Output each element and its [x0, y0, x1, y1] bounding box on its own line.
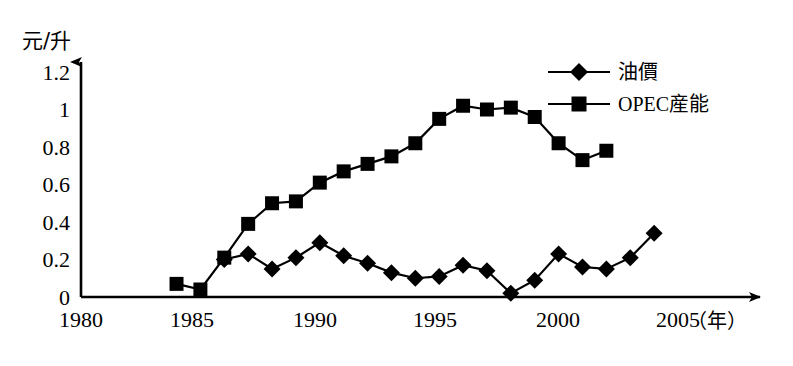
data-point-1993[interactable]: OPEC産能 1993: 0.75	[384, 149, 398, 163]
data-point-1986[interactable]: OPEC産能 1986: 0.21	[217, 251, 231, 265]
legend-label: 油價	[618, 60, 658, 84]
y-tick-label-6: 1.2	[43, 60, 71, 85]
data-point-1989[interactable]: OPEC産能 1989: 0.51	[289, 194, 303, 208]
x-tick-label-2000: 2000	[536, 307, 580, 332]
data-point-1991[interactable]: OPEC産能 1991: 0.67	[337, 164, 351, 178]
legend-label: OPEC産能	[618, 93, 709, 115]
x-tick-label-1985: 1985	[170, 307, 214, 332]
data-point-2000[interactable]: OPEC産能 2000: 0.82	[552, 136, 566, 150]
y-tick-label-2: 0.4	[43, 210, 71, 235]
data-point-1984[interactable]: OPEC産能 1984: 0.07	[170, 277, 184, 291]
x-tick-label-1995: 1995	[413, 307, 457, 332]
data-point-1995[interactable]: OPEC産能 1995: 0.95	[432, 112, 446, 126]
data-point-1997[interactable]: OPEC産能 1997: 1	[480, 103, 494, 117]
data-point-1992[interactable]: OPEC産能 1992: 0.71	[361, 157, 375, 171]
data-point-1998[interactable]: OPEC産能 1998: 1.01	[504, 101, 518, 115]
data-point-1994[interactable]: OPEC産能 1994: 0.82	[408, 136, 422, 150]
data-point-1988[interactable]: OPEC産能 1988: 0.5	[265, 196, 279, 210]
data-point-1996[interactable]: OPEC産能 1996: 1.02	[456, 99, 470, 113]
data-point-1990[interactable]: OPEC産能 1990: 0.61	[313, 176, 327, 190]
x-tick-label-1990: 1990	[293, 307, 337, 332]
y-tick-label-4: 0.8	[43, 135, 71, 160]
legend-marker-square-icon	[572, 97, 587, 112]
x-axis-title: （年）	[687, 309, 747, 333]
y-tick-label-1: 0.2	[43, 247, 71, 272]
y-axis-title: 元/升	[22, 29, 71, 53]
data-point-1999[interactable]: OPEC産能 1999: 0.96	[528, 110, 542, 124]
data-point-2001[interactable]: OPEC産能 2001: 0.73	[575, 153, 589, 167]
x-tick-label-1980: 1980	[59, 307, 103, 332]
y-tick-label-3: 0.6	[43, 172, 71, 197]
y-tick-label-5: 1	[59, 97, 70, 122]
data-point-1985[interactable]: OPEC産能 1985: 0.04	[193, 283, 207, 297]
data-point-2002[interactable]: OPEC産能 2002: 0.78	[599, 144, 613, 158]
line-chart: 1.2 1 0.8 0.6 0.4 0.2 0 1980 1985 1990 1…	[0, 0, 793, 366]
chart-container: 1.2 1 0.8 0.6 0.4 0.2 0 1980 1985 1990 1…	[0, 0, 793, 366]
data-point-1987[interactable]: OPEC産能 1987: 0.39	[241, 217, 255, 231]
